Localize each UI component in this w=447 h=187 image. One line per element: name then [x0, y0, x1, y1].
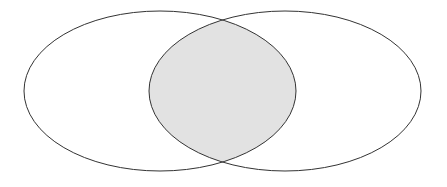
venn-diagram: [0, 0, 447, 187]
intersection-region: [149, 11, 421, 171]
